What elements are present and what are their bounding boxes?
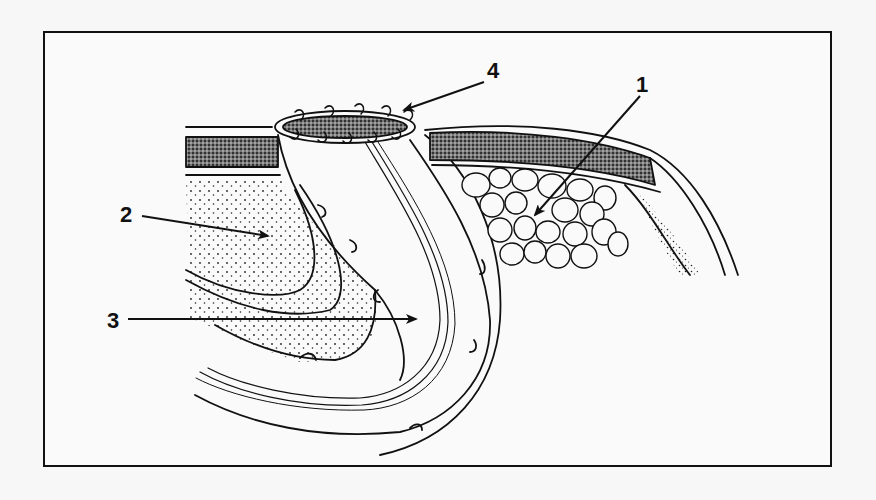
label-3: 3 [107, 308, 119, 333]
left-dense-layer [186, 137, 278, 167]
label-4: 4 [487, 58, 500, 83]
label-1: 1 [636, 72, 648, 97]
label-2: 2 [120, 202, 132, 227]
figure-frame [44, 32, 831, 466]
anatomical-diagram: 1 2 3 4 [0, 0, 876, 500]
